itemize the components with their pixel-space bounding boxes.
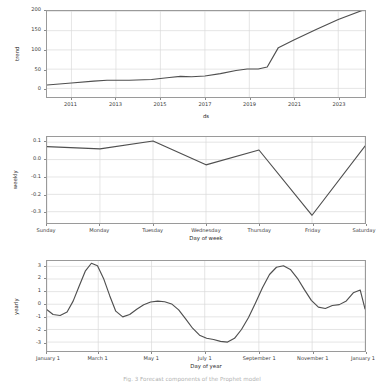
yearly-ytick-label: 1 [24, 289, 41, 294]
trend-xtick-label: 2017 [198, 102, 211, 107]
weekly-xtick-label: Sunday [36, 228, 55, 233]
trend-panel: 0 50 100 150 200 2011 2013 2015 2017 201… [0, 0, 384, 128]
trend-xtick-label: 2021 [288, 102, 301, 107]
trend-xtick-label: 2013 [109, 102, 122, 107]
yearly-plot [47, 261, 365, 351]
trend-ytick-label: 100 [24, 47, 41, 52]
weekly-xtick-label: Tuesday [142, 228, 163, 233]
weekly-x-axis-label: Day of week [189, 236, 222, 241]
trend-x-axis-label: ds [203, 114, 209, 119]
yearly-ytick-label: -3 [24, 340, 41, 345]
trend-ytick-mark [44, 50, 46, 51]
yearly-line [47, 263, 365, 342]
yearly-xtick-label: May 1 [143, 356, 158, 361]
yearly-xtick-label: January 1 [36, 356, 60, 361]
yearly-ytick-label: -1 [24, 315, 41, 320]
trend-ytick-label: 50 [24, 67, 41, 72]
yearly-axes [46, 260, 366, 352]
weekly-xtick-label: Wednesday [191, 228, 221, 233]
trend-xtick-label: 2023 [333, 102, 346, 107]
trend-ytick-label: 0 [24, 87, 41, 92]
weekly-ytick-label: 0.1 [20, 139, 41, 144]
yearly-xtick-label: March 1 [87, 356, 107, 361]
yearly-y-axis-label: yearly [14, 286, 19, 328]
weekly-ytick-label: -0.3 [20, 210, 41, 215]
weekly-plot [47, 137, 365, 223]
yearly-ytick-label: -2 [24, 327, 41, 332]
weekly-xtick-label: Thursday [247, 228, 271, 233]
yearly-x-axis-label: Day of year [190, 364, 221, 369]
yearly-ytick-label: 2 [24, 276, 41, 281]
yearly-panel: 3 2 1 0 -1 -2 -3 January 1 March 1 May 1… [0, 256, 384, 384]
trend-plot [47, 11, 365, 97]
trend-ytick-mark [44, 10, 46, 11]
weekly-ytick-mark [44, 212, 46, 213]
yearly-ytick-mark [44, 266, 46, 267]
yearly-ytick-mark [44, 317, 46, 318]
trend-ytick-label: 200 [24, 8, 41, 13]
trend-xtick-label: 2011 [64, 102, 77, 107]
trend-ytick-mark [44, 89, 46, 90]
trend-ytick-label: 150 [24, 28, 41, 33]
yearly-ytick-mark [44, 278, 46, 279]
weekly-gridlines [47, 137, 365, 223]
trend-xtick-label: 2019 [243, 102, 256, 107]
yearly-ytick-mark [44, 343, 46, 344]
yearly-ytick-label: 0 [24, 302, 41, 307]
yearly-ytick-mark [44, 291, 46, 292]
figure-caption: Fig. 3 Forecast components of the Prophe… [0, 376, 384, 382]
yearly-ytick-label: 3 [24, 263, 41, 268]
weekly-panel: 0.1 0.0 -0.1 -0.2 -0.3 Sunday Monday Tue… [0, 128, 384, 256]
yearly-xtick-label: September 1 [243, 356, 276, 361]
trend-ytick-mark [44, 70, 46, 71]
weekly-ytick-label: -0.2 [20, 192, 41, 197]
trend-xtick-label: 2015 [154, 102, 167, 107]
weekly-ytick-mark [44, 141, 46, 142]
weekly-ytick-mark [44, 195, 46, 196]
weekly-ytick-mark [44, 159, 46, 160]
trend-y-axis-label: trend [15, 34, 20, 74]
weekly-xtick-label: Friday [305, 228, 320, 233]
weekly-xtick-label: Monday [89, 228, 109, 233]
trend-line [47, 11, 364, 85]
yearly-xtick-label: November 1 [297, 356, 328, 361]
trend-gridlines [47, 11, 365, 97]
weekly-ytick-label: 0.0 [20, 157, 41, 162]
yearly-xtick-label: January 1 [351, 356, 375, 361]
weekly-y-axis-label: weekly [13, 158, 18, 202]
yearly-ytick-mark [44, 330, 46, 331]
weekly-ytick-mark [44, 177, 46, 178]
weekly-xtick-label: Saturday [353, 228, 376, 233]
yearly-ytick-mark [44, 304, 46, 305]
weekly-axes [46, 136, 366, 224]
yearly-xtick-label: July 1 [198, 356, 212, 361]
trend-axes [46, 10, 366, 98]
weekly-ytick-label: -0.1 [20, 174, 41, 179]
prophet-components-figure: 0 50 100 150 200 2011 2013 2015 2017 201… [0, 0, 384, 384]
trend-ytick-mark [44, 30, 46, 31]
